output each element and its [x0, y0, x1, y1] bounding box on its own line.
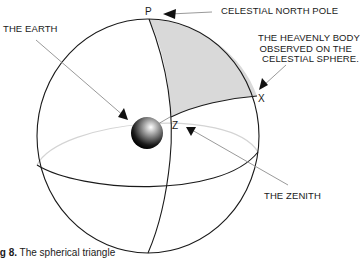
heavenly-body-line-1: THE HEAVENLY BODY [238, 33, 360, 44]
figure-number: ig 8. [0, 247, 17, 258]
heavenly-body-label: THE HEAVENLY BODY OBSERVED ON THE CELEST… [238, 33, 360, 65]
celestial-north-pole-label: CELESTIAL NORTH POLE [221, 6, 338, 17]
pole-point-label: P [145, 6, 152, 17]
zenith-point-label: Z [172, 120, 178, 131]
heavenly-body-line-3: CELESTIAL SPHERE. [238, 54, 360, 65]
figure-caption-text: The spherical triangle [17, 247, 115, 258]
body-point-label: X [258, 93, 265, 104]
equator-front [37, 152, 258, 187]
figure-caption: ig 8. The spherical triangle [0, 247, 115, 258]
earth-sphere [131, 117, 163, 149]
zenith-label: THE ZENITH [264, 191, 321, 202]
earth-label: THE EARTH [3, 24, 58, 35]
